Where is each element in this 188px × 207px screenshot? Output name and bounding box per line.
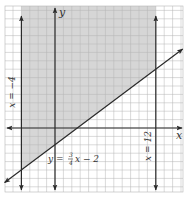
equation-suffix: x − 2: [75, 154, 99, 164]
equation-denominator: 4: [68, 159, 73, 166]
equation-prefix: y =: [47, 154, 64, 164]
left-line-label: x = −4: [7, 76, 17, 108]
equation-numerator: 3: [69, 151, 73, 158]
right-line-label: x = 12: [143, 131, 153, 161]
inequality-graph: y x x = −4 x = 12 y = 3 4 x − 2: [0, 0, 188, 207]
y-axis-label: y: [58, 6, 66, 19]
x-axis-label: x: [176, 129, 183, 142]
